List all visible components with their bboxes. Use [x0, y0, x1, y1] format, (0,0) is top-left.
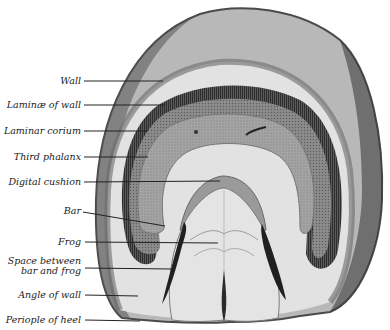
label-laminae-of-wall: Laminæ of wall [7, 100, 81, 110]
label-periople-of-heel: Periople of heel [6, 315, 81, 325]
label-digital-cushion: Digital cushion [8, 177, 81, 187]
hoof-illustration [0, 0, 390, 330]
label-bar: Bar [64, 206, 81, 216]
label-angle-of-wall: Angle of wall [18, 290, 81, 300]
label-laminar-corium: Laminar corium [4, 126, 81, 136]
hoof-section-diagram: Wall Laminæ of wall Laminar corium Third… [0, 0, 390, 330]
label-space-between-line2: bar and frog [21, 266, 81, 276]
label-third-phalanx: Third phalanx [14, 152, 81, 162]
label-wall: Wall [60, 76, 81, 86]
label-frog: Frog [58, 237, 81, 247]
